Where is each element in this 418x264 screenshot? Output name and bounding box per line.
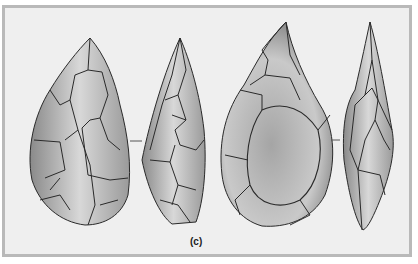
handaxe-1-side-view: [142, 38, 205, 224]
handaxe-2-side-view: [343, 22, 393, 230]
handaxe-2-face-view: [221, 22, 333, 226]
handaxe-1-face-view: [30, 38, 130, 225]
handaxe-illustration: [0, 0, 418, 264]
figure-label: (c): [190, 236, 202, 247]
